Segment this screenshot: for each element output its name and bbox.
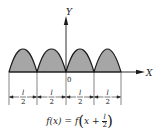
x-axis-label: X [145,68,153,78]
dimension-label-1: l 2 [20,89,26,106]
y-axis-arrow-icon [64,16,68,25]
svg-text:2: 2 [78,98,82,106]
close-paren: ) [107,112,113,130]
svg-text:2: 2 [50,98,54,106]
shaded-arches [9,49,121,72]
y-axis-label: Y [66,7,73,17]
arch-4 [94,49,121,72]
extension-lines [9,73,121,105]
arch-2 [37,49,66,72]
formula-lhs: f(x) [46,116,61,126]
formula-equals: = [64,116,72,126]
dimension-markers [10,96,121,98]
periodicity-formula: f(x) = f(x + l2) [0,112,159,130]
svg-text:2: 2 [106,98,110,106]
dimension-label-3: l 2 [77,89,83,106]
x-axis-arrow-icon [136,70,145,74]
formula-plus: + [92,116,100,126]
svg-text:l: l [79,89,81,97]
svg-text:2: 2 [21,98,25,106]
dimension-label-2: l 2 [49,89,55,106]
arch-1 [9,49,37,72]
axes: Y X 0 [9,7,153,84]
formula-rhs-var: x [84,116,89,126]
svg-text:l: l [51,89,53,97]
svg-text:l: l [107,89,109,97]
arch-3 [66,49,94,72]
dimension-label-4: l 2 [105,89,111,106]
svg-text:l: l [22,89,24,97]
origin-label: 0 [67,76,71,84]
